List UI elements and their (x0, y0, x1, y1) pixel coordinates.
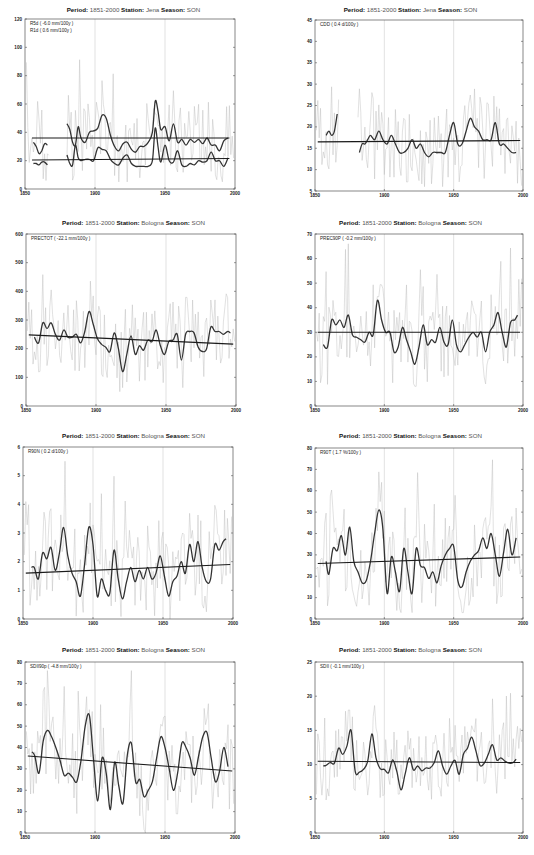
y-tick-label: 40 (307, 39, 313, 44)
raw-annual-series (26, 60, 233, 182)
legend-entry: PRECTOT ( -22.1 mm/100y ) (31, 236, 91, 241)
x-tick-label: 2000 (518, 621, 529, 626)
x-tick-label: 1950 (449, 408, 460, 413)
y-tick-label: 30 (17, 766, 23, 771)
chart-plot: 0204060801001201850190019502000R5d ( -6.… (0, 0, 267, 213)
y-tick-label: 500 (15, 260, 23, 265)
y-tick-label: 40 (307, 531, 313, 536)
chart-plot: 05101520251850190019502000SDII ( -0.1 mm… (267, 640, 534, 855)
y-tick-label: 10 (307, 762, 313, 767)
y-tick-label: 2 (17, 559, 20, 564)
y-tick-label: 70 (17, 681, 23, 686)
x-tick-label: 2000 (518, 835, 529, 840)
x-tick-label: 1900 (90, 835, 101, 840)
x-tick-label: 2000 (230, 191, 241, 196)
chart-panel-jena-r5d-r1d: Period: 1851-2000 Station: Jena Season: … (0, 0, 267, 213)
y-tick-label: 60 (17, 102, 23, 107)
y-tick-label: 15 (307, 146, 313, 151)
x-tick-label: 1950 (158, 621, 169, 626)
x-tick-label: 1900 (379, 193, 390, 198)
x-tick-label: 1950 (161, 408, 172, 413)
trend-line (318, 141, 520, 142)
legend-entry: R90T ( 1.7 %/100y ) (320, 450, 361, 455)
x-tick-label: 2000 (231, 408, 242, 413)
chart-panel-bologna-prec90p: Period: 1851-2000 Station: Bologna Seaso… (267, 213, 534, 426)
y-tick-label: 25 (307, 660, 313, 665)
x-tick-label: 1950 (449, 835, 460, 840)
x-tick-label: 2000 (518, 408, 529, 413)
chart-plot: 01002003004005006001850190019502000PRECT… (0, 213, 267, 426)
x-tick-label: 1900 (379, 621, 390, 626)
plot-frame (315, 20, 523, 191)
x-tick-label: 2000 (518, 193, 529, 198)
y-tick-label: 400 (15, 289, 23, 294)
x-tick-label: 1900 (379, 408, 390, 413)
y-tick-label: 120 (14, 17, 22, 22)
chart-panel-bologna-prectot: Period: 1851-2000 Station: Bologna Seaso… (0, 213, 267, 426)
grid-lines (95, 662, 165, 833)
x-tick-label: 2000 (230, 835, 241, 840)
grid-lines (384, 234, 453, 406)
y-tick-label: 100 (15, 375, 23, 380)
y-tick-label: 60 (17, 702, 23, 707)
x-tick-label: 1900 (90, 191, 101, 196)
x-tick-label: 1850 (310, 408, 321, 413)
legend-entry: R90N ( 0.2 d/100y ) (28, 449, 69, 454)
raw-annual-series (316, 87, 521, 187)
y-tick-label: 20 (307, 354, 313, 359)
x-tick-label: 1850 (21, 408, 32, 413)
grid-lines (384, 20, 453, 191)
y-tick-label: 30 (307, 330, 313, 335)
x-tick-label: 2000 (228, 621, 239, 626)
y-tick-label: 5 (309, 796, 312, 801)
y-tick-label: 4 (17, 502, 20, 507)
plot-frame (25, 19, 235, 189)
legend-entry: SDII ( -0.1 mm/100y ) (320, 664, 364, 669)
chart-plot: 010203040506070801850190019502000SDII90p… (0, 640, 267, 855)
raw-annual-series (316, 460, 521, 613)
smoothed-series-line (32, 714, 228, 810)
y-tick-label: 80 (17, 73, 23, 78)
y-tick-label: 50 (307, 510, 313, 515)
chart-panel-bologna-r90n: Period: 1851-2000 Station: Bologna Seaso… (0, 426, 267, 639)
y-tick-label: 40 (17, 745, 23, 750)
x-tick-label: 1850 (310, 835, 321, 840)
y-tick-label: 20 (307, 124, 313, 129)
y-tick-label: 40 (307, 305, 313, 310)
y-tick-label: 15 (307, 728, 313, 733)
y-tick-label: 20 (17, 788, 23, 793)
y-tick-label: 10 (307, 167, 313, 172)
y-tick-label: 80 (17, 660, 23, 665)
chart-panel-bologna-sdii: Period: 1851-2000 Station: Bologna Seaso… (267, 640, 534, 853)
chart-plot: 010203040506070801850190019502000R90T ( … (267, 426, 534, 639)
y-tick-label: 300 (15, 318, 23, 323)
y-tick-label: 60 (307, 488, 313, 493)
y-tick-label: 5 (17, 473, 20, 478)
legend-entry: R1d ( 0.6 mm/100y ) (30, 28, 72, 33)
y-tick-label: 10 (307, 595, 313, 600)
legend-entry: R5d ( -6.0 mm/100y ) (30, 21, 74, 26)
x-tick-label: 1950 (160, 835, 171, 840)
y-tick-label: 6 (17, 445, 20, 450)
chart-plot: 510152025303540451850190019502000CDD ( 0… (267, 0, 534, 213)
grid-lines (93, 447, 163, 619)
x-tick-label: 1950 (449, 193, 460, 198)
y-tick-label: 80 (307, 446, 313, 451)
x-tick-label: 1900 (379, 835, 390, 840)
y-tick-label: 10 (307, 379, 313, 384)
chart-plot: 01234561850190019502000R90N ( 0.2 d/100y… (0, 426, 267, 639)
legend-entry: PREC90P ( -0.2 mm/100y ) (320, 236, 376, 241)
grid-lines (384, 448, 453, 619)
y-tick-label: 30 (307, 552, 313, 557)
y-tick-label: 10 (17, 809, 23, 814)
trend-line (28, 756, 232, 771)
x-tick-label: 1850 (310, 193, 321, 198)
plot-frame (25, 662, 235, 833)
y-tick-label: 25 (307, 103, 313, 108)
y-tick-label: 100 (14, 45, 22, 50)
raw-annual-series (24, 461, 231, 619)
plot-frame (26, 234, 236, 406)
x-tick-label: 1950 (160, 191, 171, 196)
legend-entry: SDII90p ( -4.8 mm/100y ) (30, 664, 82, 669)
y-tick-label: 60 (307, 256, 313, 261)
